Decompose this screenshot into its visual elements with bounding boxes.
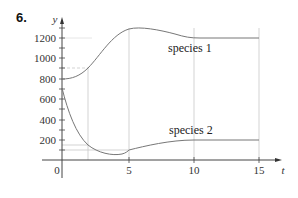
species-1-label: species 1 (168, 41, 212, 55)
y-tick-label-1200: 1200 (34, 32, 57, 44)
x-tick-label-10: 10 (189, 164, 201, 176)
y-tick-label-600: 600 (40, 93, 57, 105)
x-axis-arrow-icon (275, 158, 282, 162)
origin-label: 0 (54, 164, 60, 176)
x-tick-label-15: 15 (254, 164, 266, 176)
y-tick-label-200: 200 (40, 134, 57, 146)
axes (42, 17, 282, 178)
y-tick-label-1000: 1000 (34, 52, 57, 64)
x-tick-label-5: 5 (126, 164, 132, 176)
y-tick-label-800: 800 (40, 73, 57, 85)
y-tick-label-400: 400 (40, 114, 57, 126)
species-2-label: species 2 (169, 123, 213, 137)
y-axis-arrow-icon (60, 17, 64, 24)
x-axis-label: t (281, 164, 285, 176)
species-1-curve (62, 28, 259, 79)
species-2-curve (62, 88, 259, 155)
y-axis-label: y (52, 13, 58, 25)
population-chart: 200 400 600 800 1000 1200 0 5 10 15 y t … (0, 0, 298, 198)
